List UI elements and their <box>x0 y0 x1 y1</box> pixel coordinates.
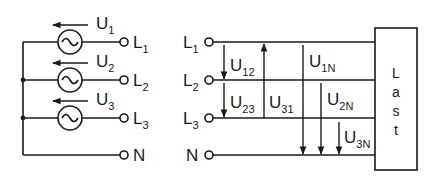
terminal-icon <box>205 151 213 159</box>
terminal-icon <box>205 76 213 84</box>
source-terminal-l1: L1 <box>133 33 149 55</box>
load-label-letter: t <box>394 122 398 138</box>
voltage-label-u3n: U3N <box>344 128 370 150</box>
terminal-icon <box>120 114 128 122</box>
junction-dot <box>21 116 26 121</box>
terminal-icon <box>205 38 213 46</box>
load-label-letter: s <box>393 103 400 119</box>
junction-dot <box>21 78 26 83</box>
voltage-label-u1: U1 <box>96 14 114 36</box>
source-terminal-l2: L2 <box>133 71 149 93</box>
ac-source-icon <box>58 68 82 92</box>
network-terminal-l3: L3 <box>183 109 199 131</box>
ac-source-icon <box>58 106 82 130</box>
voltage-label-u3: U3 <box>96 90 114 112</box>
voltage-label-u1n: U1N <box>309 52 335 74</box>
network-terminal-n: N <box>186 146 198 165</box>
source-terminal-n: N <box>133 146 145 165</box>
voltage-label-u2n: U2N <box>327 90 353 112</box>
load-label-letter: a <box>392 84 400 100</box>
voltage-label-u31: U31 <box>269 93 294 115</box>
ac-source-icon <box>58 30 82 54</box>
voltage-label-u23: U23 <box>230 93 255 115</box>
network-terminal-l2: L2 <box>183 71 199 93</box>
terminal-icon <box>120 151 128 159</box>
load-label-letter: L <box>392 65 400 81</box>
source-terminal-l3: L3 <box>133 109 149 131</box>
terminal-icon <box>120 76 128 84</box>
voltage-label-u12: U12 <box>230 56 255 78</box>
terminal-icon <box>120 38 128 46</box>
voltage-label-u2: U2 <box>96 52 114 74</box>
terminal-icon <box>205 114 213 122</box>
three-phase-diagram: U1 U2 U3 L1 L2 L3 N L1 L2 L3 N U12 U23 U… <box>0 0 432 182</box>
network-terminal-l1: L1 <box>183 33 199 55</box>
